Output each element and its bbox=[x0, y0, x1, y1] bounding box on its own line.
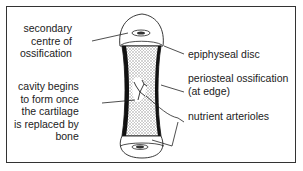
label-nutrient-arterioles: nutrient arterioles bbox=[188, 110, 269, 123]
bone-shaft bbox=[122, 46, 161, 136]
label-epiphyseal-disc: epiphyseal disc bbox=[188, 48, 260, 61]
bottom-epiphysis bbox=[120, 136, 164, 158]
top-epiphysis bbox=[120, 14, 164, 46]
label-cavity: cavity begins to form once the cartilage… bbox=[14, 80, 79, 143]
label-secondary-centre: secondary centre of ossification bbox=[20, 22, 72, 60]
label-periosteal-ossification: periosteal ossification (at edge) bbox=[188, 72, 288, 97]
